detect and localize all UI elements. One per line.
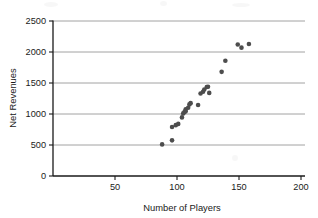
- data-point: [176, 122, 181, 127]
- x-tick-label: 100: [169, 182, 184, 192]
- data-points: [160, 42, 251, 147]
- y-tick-label: 500: [31, 140, 46, 150]
- data-point: [180, 115, 185, 120]
- y-axis-title: Net Revenues: [7, 68, 18, 128]
- y-tick-label: 2000: [26, 47, 46, 57]
- data-point: [223, 58, 228, 63]
- y-tick-label: 1000: [26, 109, 46, 119]
- data-point: [247, 42, 252, 47]
- data-point: [219, 70, 224, 75]
- y-tick-label: 2500: [26, 16, 46, 26]
- scatter-plot-figure: 05001000150020002500 50100150200 Number …: [0, 0, 318, 218]
- x-tick-label: 150: [231, 182, 246, 192]
- x-axis-ticks: 50100150200: [110, 176, 309, 192]
- data-point: [170, 138, 175, 143]
- grid-lines: [53, 21, 305, 145]
- axes: [53, 21, 305, 177]
- data-point: [188, 101, 193, 106]
- y-tick-label: 0: [41, 171, 46, 181]
- data-point: [160, 142, 165, 147]
- data-point: [239, 45, 244, 50]
- x-tick-label: 200: [293, 182, 308, 192]
- plot-canvas: 05001000150020002500 50100150200 Number …: [0, 0, 318, 218]
- data-point: [207, 91, 212, 96]
- data-point: [196, 103, 201, 108]
- data-point: [206, 84, 211, 89]
- x-tick-label: 50: [110, 182, 120, 192]
- y-axis-ticks: 05001000150020002500: [26, 16, 53, 181]
- y-tick-label: 1500: [26, 78, 46, 88]
- data-point: [235, 42, 240, 47]
- x-axis-title: Number of Players: [143, 202, 221, 213]
